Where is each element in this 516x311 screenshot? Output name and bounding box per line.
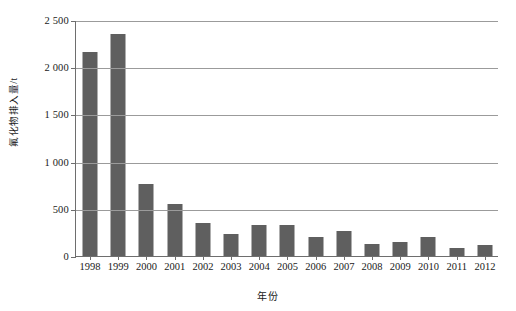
bar[interactable] <box>224 234 239 256</box>
x-tick-label: 2003 <box>221 262 242 273</box>
bar-slot: 2003 <box>217 21 245 256</box>
y-tick-mark <box>71 21 76 22</box>
bar-slot: 1998 <box>76 21 104 256</box>
x-tick-mark <box>146 256 147 260</box>
y-tick-mark <box>71 115 76 116</box>
x-tick-mark <box>203 256 204 260</box>
y-tick-label: 0 <box>64 252 69 263</box>
bar-slot: 2002 <box>189 21 217 256</box>
bar[interactable] <box>139 184 154 256</box>
gridline <box>76 163 498 164</box>
bar-slot: 2005 <box>273 21 301 256</box>
y-tick-mark <box>71 68 76 69</box>
x-tick-label: 2008 <box>362 262 383 273</box>
y-tick-mark <box>71 210 76 211</box>
bar[interactable] <box>336 231 351 256</box>
bar[interactable] <box>83 52 98 256</box>
x-tick-label: 2002 <box>192 262 213 273</box>
x-tick-label: 2012 <box>474 262 495 273</box>
bar-chart: 氟化物排入量/t 1998199920002001200220032004200… <box>0 0 516 311</box>
bar[interactable] <box>449 248 464 256</box>
x-tick-mark <box>485 256 486 260</box>
bar-slot: 2004 <box>245 21 273 256</box>
y-tick-label: 1 000 <box>44 157 69 168</box>
y-tick-label: 500 <box>53 205 69 216</box>
y-tick-label: 2 000 <box>44 63 69 74</box>
bar[interactable] <box>252 225 267 256</box>
y-tick-mark <box>71 163 76 164</box>
x-tick-mark <box>372 256 373 260</box>
bar-slot: 2007 <box>330 21 358 256</box>
x-tick-mark <box>400 256 401 260</box>
bar[interactable] <box>195 223 210 256</box>
bar[interactable] <box>167 204 182 256</box>
y-axis-title-text: 氟化物排入量/t <box>10 77 20 146</box>
x-tick-label: 2010 <box>418 262 439 273</box>
x-tick-label: 2000 <box>136 262 157 273</box>
bar-slot: 2001 <box>161 21 189 256</box>
x-tick-label: 1998 <box>80 262 101 273</box>
x-tick-mark <box>287 256 288 260</box>
x-tick-mark <box>344 256 345 260</box>
gridline <box>76 210 498 211</box>
x-axis-title-text: 年份 <box>237 291 279 302</box>
bar[interactable] <box>421 237 436 256</box>
x-axis-title: 年份 <box>0 288 516 303</box>
bar[interactable] <box>365 244 380 256</box>
x-tick-label: 2006 <box>305 262 326 273</box>
x-tick-mark <box>118 256 119 260</box>
x-tick-label: 2001 <box>164 262 185 273</box>
x-tick-mark <box>457 256 458 260</box>
x-tick-mark <box>259 256 260 260</box>
x-tick-label: 1999 <box>108 262 129 273</box>
x-tick-mark <box>175 256 176 260</box>
bar-slot: 2011 <box>443 21 471 256</box>
y-tick-label: 1 500 <box>44 110 69 121</box>
y-tick-label: 2 500 <box>44 16 69 27</box>
x-tick-label: 2007 <box>333 262 354 273</box>
gridline <box>76 68 498 69</box>
x-tick-mark <box>231 256 232 260</box>
gridline <box>76 115 498 116</box>
x-tick-label: 2004 <box>249 262 270 273</box>
gridline <box>76 21 498 22</box>
bar[interactable] <box>308 237 323 256</box>
bar[interactable] <box>393 242 408 256</box>
plot-area: 1998199920002001200220032004200520062007… <box>75 21 498 257</box>
x-tick-mark <box>90 256 91 260</box>
x-tick-label: 2011 <box>446 262 467 273</box>
bar-slot: 2008 <box>358 21 386 256</box>
x-tick-label: 2005 <box>277 262 298 273</box>
x-tick-mark <box>316 256 317 260</box>
bar-slot: 2000 <box>132 21 160 256</box>
bar[interactable] <box>477 245 492 256</box>
bar-slot: 2009 <box>386 21 414 256</box>
bar-slot: 2010 <box>414 21 442 256</box>
bar-slot: 2006 <box>302 21 330 256</box>
bars-layer: 1998199920002001200220032004200520062007… <box>76 21 498 256</box>
bar-slot: 1999 <box>104 21 132 256</box>
x-tick-label: 2009 <box>390 262 411 273</box>
bar[interactable] <box>280 225 295 256</box>
y-tick-mark <box>71 257 76 258</box>
bar-slot: 2012 <box>471 21 499 256</box>
x-tick-mark <box>428 256 429 260</box>
